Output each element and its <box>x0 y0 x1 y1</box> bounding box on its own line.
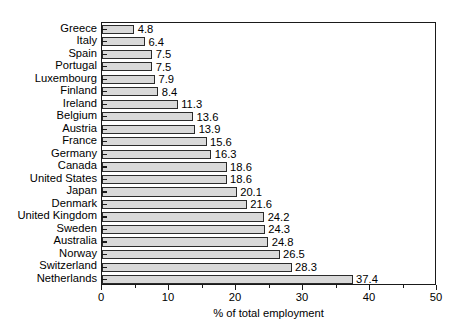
bar-value-label: 6.4 <box>148 36 164 49</box>
y-axis-tick <box>102 104 107 105</box>
category-label: Sweden <box>1 222 97 235</box>
category-label: Italy <box>1 34 97 47</box>
y-axis-tick <box>102 54 107 55</box>
x-axis-major-tick <box>101 285 102 290</box>
bar-value-label: 24.3 <box>268 223 290 236</box>
x-axis-major-tick <box>168 285 169 290</box>
x-axis-minor-tick <box>202 285 203 288</box>
x-axis-title: % of total employment <box>101 307 436 319</box>
x-axis-minor-tick <box>269 285 270 288</box>
bar-row: 11.3 <box>102 98 435 111</box>
x-axis-tick-label: 30 <box>296 291 308 304</box>
bar-value-label: 13.9 <box>199 123 221 136</box>
bar-row: 7.5 <box>102 61 435 74</box>
bar-row: 13.6 <box>102 111 435 124</box>
bar-row: 18.6 <box>102 161 435 174</box>
y-axis-tick <box>102 166 107 167</box>
bar-value-label: 18.6 <box>230 161 252 174</box>
bar-row: 24.8 <box>102 236 435 249</box>
x-axis-tick-label: 0 <box>98 291 104 304</box>
category-label: Finland <box>1 84 97 97</box>
y-axis-tick <box>102 91 107 92</box>
category-label: Greece <box>1 22 97 35</box>
bar-value-label: 11.3 <box>181 98 202 111</box>
category-label: Luxembourg <box>1 72 97 85</box>
bar <box>102 150 211 159</box>
bar-row: 24.3 <box>102 223 435 236</box>
bar-value-label: 7.5 <box>156 61 172 74</box>
y-axis-tick <box>102 241 107 242</box>
bar-row: 20.1 <box>102 186 435 199</box>
x-axis-tick-label: 50 <box>430 291 442 304</box>
bar-row: 7.9 <box>102 73 435 86</box>
x-axis-minor-tick <box>135 285 136 288</box>
bar-value-label: 20.1 <box>240 186 262 199</box>
bar <box>102 62 152 71</box>
bar <box>102 200 247 209</box>
y-axis-tick <box>102 154 107 155</box>
x-axis-minor-tick <box>336 285 337 288</box>
bar-value-label: 28.3 <box>295 261 317 274</box>
bar <box>102 275 353 284</box>
category-label: Netherlands <box>1 272 97 285</box>
bar-value-label: 26.5 <box>283 248 305 261</box>
category-label: France <box>1 134 97 147</box>
category-label: Japan <box>1 184 97 197</box>
y-axis-tick <box>102 191 107 192</box>
bar <box>102 137 207 146</box>
bar-value-label: 8.4 <box>162 86 178 99</box>
bar-row: 7.5 <box>102 48 435 61</box>
bar-value-label: 24.2 <box>268 211 290 224</box>
x-axis-tick-label: 20 <box>229 291 241 304</box>
bar-value-label: 21.6 <box>250 198 272 211</box>
bar <box>102 112 193 121</box>
x-axis-minor-tick <box>403 285 404 288</box>
y-axis-tick <box>102 267 107 268</box>
bar-value-label: 7.9 <box>158 73 174 86</box>
bar-value-label: 13.6 <box>197 111 219 124</box>
bar-row: 26.5 <box>102 248 435 261</box>
bar-row: 21.6 <box>102 198 435 211</box>
bar <box>102 175 227 184</box>
x-axis-major-tick <box>235 285 236 290</box>
x-axis-major-tick <box>302 285 303 290</box>
category-label: Spain <box>1 47 97 60</box>
category-label: Germany <box>1 147 97 160</box>
category-label: United States <box>1 172 97 185</box>
bar <box>102 237 268 246</box>
y-axis-tick <box>102 216 107 217</box>
bar-row: 15.6 <box>102 136 435 149</box>
bar-row: 13.9 <box>102 123 435 136</box>
y-axis-tick <box>102 141 107 142</box>
bar-value-label: 15.6 <box>210 136 232 149</box>
x-axis-tick-label: 10 <box>162 291 174 304</box>
bar <box>102 37 145 46</box>
y-axis-tick <box>102 41 107 42</box>
y-axis-tick <box>102 79 107 80</box>
bar <box>102 225 265 234</box>
bar-value-label: 7.5 <box>156 48 172 61</box>
bar-value-label: 18.6 <box>230 173 252 186</box>
y-axis-tick <box>102 66 107 67</box>
category-label: Norway <box>1 247 97 260</box>
bar <box>102 125 195 134</box>
category-label: Denmark <box>1 197 97 210</box>
bar-row: 16.3 <box>102 148 435 161</box>
y-axis-tick <box>102 204 107 205</box>
bar <box>102 187 237 196</box>
bar-row: 8.4 <box>102 86 435 99</box>
y-axis-tick <box>102 179 107 180</box>
y-axis-tick <box>102 29 107 30</box>
bar <box>102 50 152 59</box>
bar <box>102 87 158 96</box>
bar-row: 4.8 <box>102 23 435 36</box>
y-axis-tick <box>102 254 107 255</box>
bar <box>102 75 155 84</box>
y-axis-tick <box>102 229 107 230</box>
bar-row: 6.4 <box>102 36 435 49</box>
x-axis: % of total employment 01020304050 <box>101 285 436 335</box>
category-label: Ireland <box>1 97 97 110</box>
bar-row: 28.3 <box>102 261 435 274</box>
plot-area: 4.86.47.57.57.98.411.313.613.915.616.318… <box>101 22 436 285</box>
bar <box>102 162 227 171</box>
